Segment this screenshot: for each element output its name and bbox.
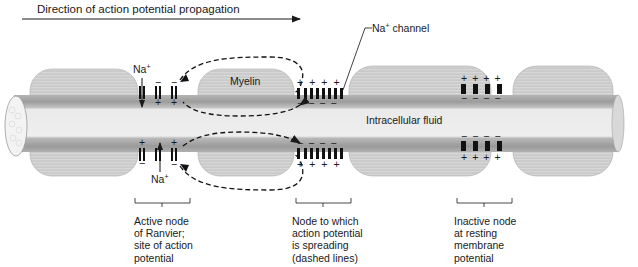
myelin-label: Myelin (230, 75, 260, 87)
node-description-spreading: Node to whichaction potentialis spreadin… (292, 215, 363, 264)
signs-plus-row: ++++ (461, 72, 506, 84)
signs-plus-row: ++++ (461, 151, 506, 163)
sign-minus: − (171, 158, 177, 170)
sign-minus: − (155, 76, 161, 88)
sign-minus: − (139, 157, 145, 169)
axon-right-end (612, 95, 624, 152)
na-ion-label-bottom: Na+ (151, 173, 169, 185)
signs-minus-row: −−−− (297, 97, 342, 109)
sign-plus: + (139, 136, 145, 148)
intracellular-fluid-label: Intracellular fluid (366, 114, 442, 126)
signs-minus-row: −−−− (297, 137, 342, 149)
sign-plus: + (171, 96, 177, 108)
signs-minus-row: −−−− (461, 130, 506, 142)
signs-plus-row: ++++ (297, 76, 346, 88)
node-description-inactive: Inactive nodeat restingmembranepotential (454, 215, 516, 264)
signs-plus-row: ++++ (297, 158, 346, 170)
sign-minus: − (171, 76, 177, 88)
node-brackets (135, 198, 512, 207)
na-ion-label-top: Na+ (133, 63, 151, 75)
signs-minus-row: −−−− (461, 92, 506, 104)
axon-cut-end (5, 96, 27, 156)
sign-plus: + (155, 96, 161, 108)
na-channel-label: Na+ channel (372, 22, 429, 34)
sign-plus: + (171, 136, 177, 148)
node-description-active: Active nodeof Ranvier;site of actionpote… (134, 215, 193, 264)
